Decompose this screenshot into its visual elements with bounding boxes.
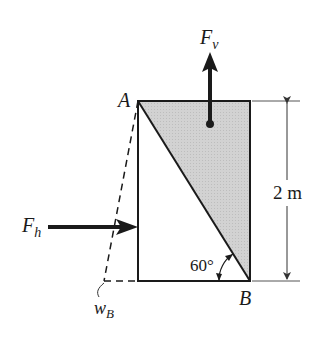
angle-arc-arrow-bottom-icon bbox=[216, 273, 222, 281]
point-label-B: B bbox=[239, 287, 251, 309]
fv-label: Fv bbox=[199, 26, 219, 52]
wB-leader-curve bbox=[98, 283, 104, 297]
wB-label: wB bbox=[94, 298, 114, 321]
diagram-canvas: A B wB Fv Fh 2 m 60° bbox=[0, 0, 322, 337]
angle-label: 60° bbox=[190, 256, 214, 275]
angle-arc-60 bbox=[219, 254, 233, 281]
deflection-dashed-line bbox=[104, 101, 138, 281]
dimension-label: 2 m bbox=[273, 182, 302, 203]
fh-label: Fh bbox=[21, 214, 41, 240]
point-label-A: A bbox=[116, 89, 131, 111]
